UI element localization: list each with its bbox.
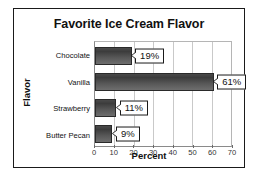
tickmark-30 bbox=[153, 145, 154, 148]
gridline-40 bbox=[173, 42, 174, 146]
chart-title: Favorite Ice Cream Flavor bbox=[14, 17, 244, 31]
bar-strawberry[interactable] bbox=[95, 99, 116, 116]
data-label-chocolate-text: 19% bbox=[140, 50, 159, 61]
bar-butter-pecan[interactable] bbox=[95, 125, 112, 142]
y-axis-label: Flavor bbox=[21, 63, 32, 123]
gridline-60 bbox=[212, 42, 213, 146]
callout-pointer-icon bbox=[116, 104, 121, 112]
plot-area: 19% 61% 11% 9% bbox=[94, 41, 232, 147]
tickmark-40 bbox=[173, 145, 174, 148]
callout-pointer-icon bbox=[112, 130, 117, 138]
data-label-strawberry: 11% bbox=[120, 101, 148, 116]
tickmark-50 bbox=[193, 145, 194, 148]
tickmark-60 bbox=[212, 145, 213, 148]
bar-chocolate[interactable] bbox=[95, 47, 132, 64]
bar-vanilla[interactable] bbox=[95, 73, 214, 90]
category-label-vanilla: Vanilla bbox=[68, 77, 90, 86]
category-labels: Chocolate Vanilla Strawberry Butter Peca… bbox=[32, 41, 93, 147]
data-label-vanilla: 61% bbox=[217, 75, 246, 90]
callout-pointer-icon bbox=[213, 78, 218, 86]
data-label-butter-pecan: 9% bbox=[116, 127, 140, 142]
category-label-butter-pecan: Butter Pecan bbox=[46, 130, 90, 139]
data-label-vanilla-text: 61% bbox=[222, 76, 241, 87]
data-label-strawberry-text: 11% bbox=[125, 102, 143, 113]
tickmark-70 bbox=[232, 145, 233, 148]
x-axis-label: Percent bbox=[14, 150, 244, 161]
gridline-50 bbox=[192, 42, 193, 146]
tickmark-10 bbox=[114, 145, 115, 148]
category-label-chocolate: Chocolate bbox=[56, 51, 90, 60]
data-label-chocolate: 19% bbox=[135, 49, 164, 64]
tickmark-20 bbox=[133, 145, 134, 148]
tickmark-0 bbox=[94, 145, 95, 148]
data-label-butter-pecan-text: 9% bbox=[121, 128, 135, 139]
callout-pointer-icon bbox=[131, 52, 136, 60]
category-label-strawberry: Strawberry bbox=[53, 104, 90, 113]
chart-frame: Favorite Ice Cream Flavor Flavor Chocola… bbox=[13, 8, 245, 168]
